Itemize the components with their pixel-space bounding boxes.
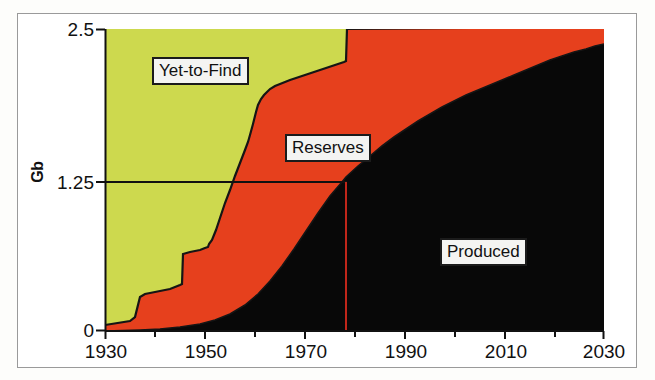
x-tick-label-1950: 1950 [175, 341, 237, 363]
y-tick-label-mid: 1.25 [42, 172, 94, 194]
x-tick-label-2010: 2010 [475, 341, 537, 363]
chart-page: Gb 2.5 1.25 0 1930 1950 1970 1990 2010 2… [0, 0, 655, 380]
y-tick-label-zero: 0 [42, 320, 94, 342]
series-label-yet-to-find: Yet-to-Find [152, 57, 249, 85]
series-label-produced: Produced [440, 238, 527, 266]
cumulative-discovery-line-upper [347, 4, 604, 29]
x-tick-label-2030: 2030 [573, 341, 635, 363]
y-tick-label-top: 2.5 [42, 19, 94, 41]
x-tick-label-1990: 1990 [375, 341, 437, 363]
x-tick-label-1930: 1930 [75, 341, 137, 363]
stacked-area-chart [0, 0, 655, 380]
x-axis-ticks [106, 331, 604, 339]
plot-container: Gb 2.5 1.25 0 1930 1950 1970 1990 2010 2… [0, 0, 655, 380]
series-label-reserves: Reserves [285, 134, 371, 162]
x-tick-label-1970: 1970 [275, 341, 337, 363]
